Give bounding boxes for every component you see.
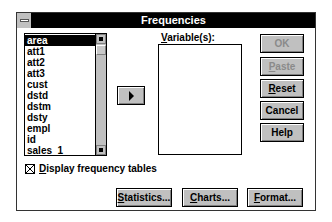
list-item[interactable]: empl [25, 123, 95, 134]
charts-button[interactable]: Charts... [182, 188, 238, 207]
display-frequency-tables-checkbox[interactable] [25, 164, 35, 174]
system-menu-icon[interactable] [17, 13, 32, 28]
statistics-button[interactable]: Statistics... [116, 188, 172, 207]
cancel-button[interactable]: Cancel [260, 101, 304, 120]
paste-button[interactable]: Paste [260, 57, 304, 76]
checkmark-x-icon [26, 165, 34, 173]
format-button[interactable]: Format... [247, 188, 303, 207]
vertical-scrollbar[interactable] [95, 34, 106, 155]
variables-label: Variable(s): [161, 32, 215, 44]
list-items: areaatt1att2att3custdstddstmdstyemplidsa… [25, 35, 95, 156]
list-item[interactable]: cust [25, 79, 95, 90]
list-item[interactable]: sales_1 [25, 145, 95, 156]
list-item[interactable]: dstm [25, 101, 95, 112]
scroll-down-icon[interactable] [96, 145, 106, 155]
list-item[interactable]: att1 [25, 46, 95, 57]
move-variable-button[interactable] [117, 86, 145, 105]
arrow-right-icon [129, 91, 134, 101]
list-item[interactable]: att3 [25, 68, 95, 79]
source-variable-list[interactable]: areaatt1att2att3custdstddstmdstyemplidsa… [24, 33, 107, 156]
frequencies-dialog: Frequencies areaatt1att2att3custdstddstm… [16, 12, 316, 211]
list-item[interactable]: att2 [25, 57, 95, 68]
selected-variables-list[interactable] [158, 44, 242, 155]
ok-button[interactable]: OK [260, 34, 304, 53]
list-item[interactable]: dsty [25, 112, 95, 123]
reset-button[interactable]: Reset [260, 79, 304, 98]
list-item[interactable]: area [25, 35, 95, 46]
title-bar: Frequencies [17, 13, 315, 28]
list-item[interactable]: id [25, 134, 95, 145]
display-frequency-tables-label: Display frequency tables [39, 163, 157, 174]
variables-label-text: ariable(s): [167, 32, 215, 43]
scroll-up-icon[interactable] [96, 34, 106, 44]
window-title: Frequencies [32, 13, 315, 28]
scroll-thumb[interactable] [96, 45, 106, 55]
list-item[interactable]: dstd [25, 90, 95, 101]
help-button[interactable]: Help [260, 123, 304, 142]
display-frequency-tables-option[interactable]: Display frequency tables [25, 163, 157, 174]
